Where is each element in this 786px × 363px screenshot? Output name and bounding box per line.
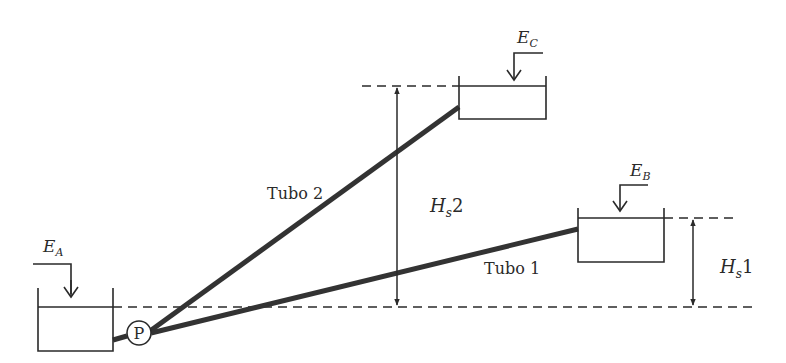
pump-label: P [134,324,145,343]
label-ea: EA [42,236,63,259]
label-tubo-1: Tubo 1 [484,259,540,278]
pipe-suction [113,336,127,340]
reservoir-c [459,53,546,119]
pumping-system-diagram: EA EC EB P Hs2 Hs1 Tubo 2 Tubo 1 [0,0,786,363]
pipes [113,107,578,340]
reservoir-b [578,185,664,262]
label-ec: EC [516,27,538,50]
reservoir-a [33,264,113,351]
label-hs1: Hs1 [719,256,753,281]
label-eb: EB [629,160,651,183]
pump: P [127,321,151,345]
label-hs2: Hs2 [429,195,463,220]
label-tubo-2: Tubo 2 [267,184,323,203]
